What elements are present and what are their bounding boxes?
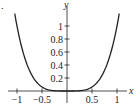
y-tick-label: 0.6 xyxy=(51,47,64,58)
x-tick-label: −1 xyxy=(12,94,23,105)
y-tick-label: 0.2 xyxy=(51,73,64,84)
y-tick-label: 1 xyxy=(58,21,63,32)
y-tick-label: 0.4 xyxy=(51,60,64,71)
y-tick-label: 0.8 xyxy=(51,34,64,45)
y-axis-label: y xyxy=(63,0,69,10)
x-tick-label: 1 xyxy=(115,94,120,105)
x-tick-label: −0.5 xyxy=(33,94,51,105)
problem-marker: . xyxy=(1,0,4,11)
x-axis-label: x xyxy=(128,85,134,96)
function-plot: . x y −1−0.50.51 0.20.40.60.81 xyxy=(0,0,137,110)
x-tick-label: 0.5 xyxy=(86,94,99,105)
axes: x y xyxy=(8,0,134,103)
